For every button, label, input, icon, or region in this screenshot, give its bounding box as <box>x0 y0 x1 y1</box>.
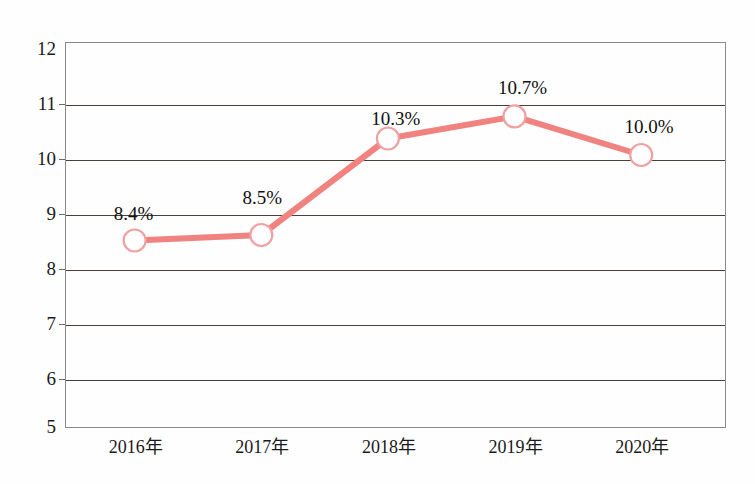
y-axis-tick-label: 5 <box>47 416 57 437</box>
y-axis-tick-6: 6 <box>22 369 56 388</box>
y-axis-tick-label: 11 <box>38 93 56 114</box>
y-axis-tick-5: 5 <box>22 417 56 436</box>
data-label-2017: 8.5% <box>242 188 282 207</box>
x-axis-label-2017: 2017年 <box>235 437 289 457</box>
y-axis-tick-label: 8 <box>47 258 57 279</box>
y-axis-tick-label: 12 <box>37 38 56 59</box>
x-axis-label-2018: 2018年 <box>362 437 416 457</box>
y-axis-tick-label: 7 <box>47 313 57 334</box>
y-axis-tick-11: 11 <box>22 94 56 113</box>
gridline-10 <box>66 160 725 161</box>
gridline-6 <box>66 380 725 381</box>
y-axis-tick-label: 10 <box>37 148 56 169</box>
plot-area <box>65 42 726 428</box>
gridline-7 <box>66 325 725 326</box>
y-axis-tick-10: 10 <box>22 149 56 168</box>
y-axis-tick-7: 7 <box>22 314 56 333</box>
line-chart: 12 11 10 9 8 7 6 5 8.4% 8.5% 10.3% 10.7%… <box>0 0 755 484</box>
gridline-11 <box>66 105 725 106</box>
y-axis-tick-12: 12 <box>22 39 56 58</box>
gridline-9 <box>66 215 725 216</box>
data-label-2020: 10.0% <box>625 117 674 136</box>
data-label-2019: 10.7% <box>498 78 547 97</box>
x-axis-label-2016: 2016年 <box>109 437 163 457</box>
y-axis-tick-9: 9 <box>22 204 56 223</box>
data-label-2018: 10.3% <box>371 109 420 128</box>
x-axis-label-2020: 2020年 <box>615 437 669 457</box>
y-axis-tick-label: 6 <box>47 368 57 389</box>
y-axis-tick-8: 8 <box>22 259 56 278</box>
x-axis-label-2019: 2019年 <box>489 437 543 457</box>
y-axis-tick-label: 9 <box>47 203 57 224</box>
gridline-8 <box>66 270 725 271</box>
data-label-2016: 8.4% <box>114 204 154 223</box>
